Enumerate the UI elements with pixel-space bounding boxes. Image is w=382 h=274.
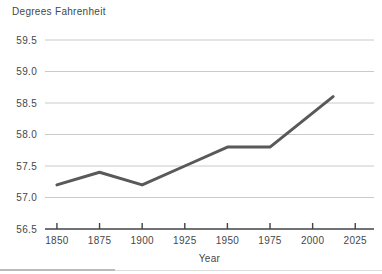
y-axis-tick-label: 58.5: [16, 98, 37, 109]
y-axis-tick-label: 58.0: [16, 129, 37, 140]
y-axis-tick-label: 56.5: [16, 224, 37, 235]
x-axis-tick-label: 1900: [130, 235, 154, 246]
chart-plot-area: 59.559.058.558.057.557.056.5185018751900…: [0, 0, 382, 274]
x-axis-title: Year: [45, 253, 374, 264]
x-axis-tick-label: 1975: [258, 235, 282, 246]
x-axis-tick-label: 2000: [301, 235, 325, 246]
y-axis-tick-label: 57.5: [16, 161, 37, 172]
y-axis-tick-label: 57.0: [16, 192, 37, 203]
y-axis-tick-label: 59.5: [16, 35, 37, 46]
temperature-line: [57, 97, 333, 185]
x-axis-tick-label: 2025: [344, 235, 368, 246]
x-axis-tick-label: 1850: [45, 235, 69, 246]
x-axis-tick-label: 1875: [88, 235, 112, 246]
x-axis-tick-label: 1925: [173, 235, 197, 246]
temperature-line-chart: Degrees Fahrenheit 59.559.058.558.057.55…: [0, 0, 382, 274]
x-axis-tick-label: 1950: [216, 235, 240, 246]
y-axis-tick-label: 59.0: [16, 66, 37, 77]
bottom-divider-left-segment: [0, 269, 115, 271]
